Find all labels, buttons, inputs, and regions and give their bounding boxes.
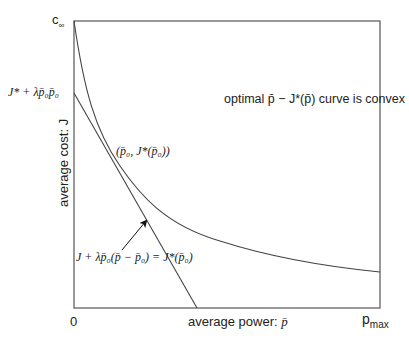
tangent-line bbox=[74, 93, 197, 308]
y-top-tick-label: c∞ bbox=[52, 13, 64, 30]
y-top-tick-sub: ∞ bbox=[59, 21, 65, 30]
x-max-tick-label: pmax bbox=[362, 312, 389, 330]
x-max-tick-sub: max bbox=[370, 319, 389, 330]
convexity-annotation: optimal p̄ − J*(p̄) curve is convex bbox=[224, 93, 405, 106]
x-origin-tick-label: 0 bbox=[70, 315, 77, 328]
x-axis-label-text: average power: bbox=[188, 314, 281, 329]
tangent-point-label: (p̄₀, J*(p̄₀)) bbox=[116, 145, 170, 157]
tangent-arrow bbox=[122, 221, 146, 250]
y-intercept-label: J* + λp̄₀p̄₀ bbox=[8, 86, 59, 98]
y-axis-label: average cost: J bbox=[57, 119, 70, 207]
x-axis-label: average power: p̄ bbox=[188, 315, 288, 328]
plot-frame bbox=[74, 21, 380, 308]
x-max-tick-base: p bbox=[362, 311, 370, 327]
x-axis-label-symbol: p̄ bbox=[281, 314, 288, 329]
tangent-equation-label: J + λp̄₀(p̄ − p̄₀) = J*(p̄₀) bbox=[76, 251, 193, 263]
